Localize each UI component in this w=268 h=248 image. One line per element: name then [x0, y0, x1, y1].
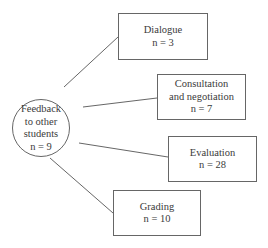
- node-label: Evaluation: [190, 147, 236, 160]
- node-count: n = 28: [199, 159, 226, 172]
- hub-feedback-to-other-students: Feedback to other students n = 9: [12, 99, 70, 157]
- node-grading: Grading n = 10: [113, 190, 201, 236]
- node-label: Dialogue: [144, 24, 183, 37]
- hub-count: n = 9: [30, 141, 52, 154]
- link-dialogue: [64, 37, 118, 87]
- hub-label-line1: Feedback: [21, 103, 61, 116]
- node-dialogue: Dialogue n = 3: [118, 13, 208, 60]
- hub-label-line3: students: [24, 128, 58, 141]
- node-label: Grading: [140, 201, 174, 214]
- node-count: n = 7: [191, 103, 213, 116]
- node-consultation-and-negotiation: Consultation and negotiation n = 7: [157, 74, 246, 120]
- link-consultation: [83, 98, 157, 107]
- node-evaluation: Evaluation n = 28: [168, 136, 257, 182]
- node-label-line2: and negotiation: [169, 91, 234, 104]
- link-grading: [50, 158, 113, 213]
- node-count: n = 3: [152, 37, 174, 50]
- node-label: Consultation: [175, 78, 229, 91]
- link-evaluation: [79, 143, 168, 157]
- node-count: n = 10: [144, 213, 171, 226]
- hub-label-line2: to other: [25, 116, 57, 129]
